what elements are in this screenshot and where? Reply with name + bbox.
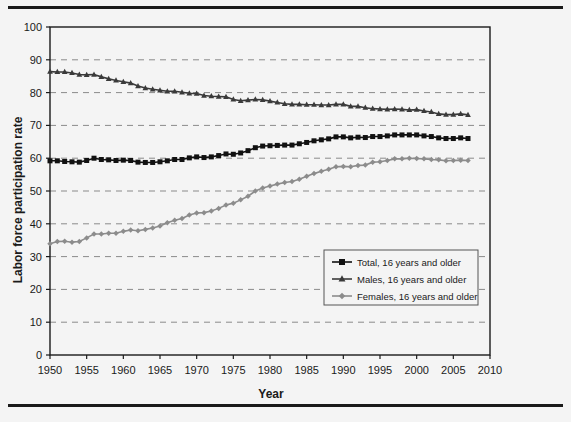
- data-point: [187, 212, 193, 218]
- data-point: [77, 239, 83, 245]
- data-series: [47, 68, 471, 246]
- data-point: [326, 136, 331, 141]
- y-tick-label: 60: [30, 152, 42, 164]
- chart-legend: Total, 16 years and olderMales, 16 years…: [324, 250, 478, 305]
- data-point: [297, 176, 303, 182]
- data-point: [121, 158, 126, 163]
- data-point: [121, 229, 127, 235]
- y-tick-label: 30: [30, 251, 42, 263]
- data-point: [275, 181, 281, 187]
- data-point: [201, 210, 207, 216]
- data-point: [165, 220, 171, 226]
- data-point: [275, 143, 280, 148]
- x-tick-label: 1985: [294, 364, 318, 376]
- data-point: [311, 171, 317, 177]
- data-point: [333, 164, 339, 170]
- data-point: [429, 157, 435, 163]
- data-point: [312, 138, 317, 143]
- data-point: [106, 157, 111, 162]
- data-point: [392, 156, 398, 162]
- data-point: [128, 158, 133, 163]
- data-point: [179, 216, 185, 222]
- data-point: [339, 259, 345, 265]
- data-point: [70, 159, 75, 164]
- data-point: [422, 133, 427, 138]
- data-point: [216, 153, 221, 158]
- data-point: [172, 217, 178, 223]
- data-point: [363, 135, 368, 140]
- data-point: [99, 231, 105, 237]
- x-tick-label: 1990: [331, 364, 355, 376]
- data-point: [260, 185, 266, 191]
- data-point: [319, 137, 324, 142]
- data-point: [143, 160, 148, 165]
- x-tick-label: 1960: [111, 364, 135, 376]
- data-point: [194, 210, 200, 216]
- data-point: [202, 155, 207, 160]
- data-point: [370, 159, 376, 165]
- y-tick-label: 50: [30, 185, 42, 197]
- data-point: [392, 132, 397, 137]
- data-point: [370, 134, 375, 139]
- data-point: [421, 156, 427, 162]
- data-point: [304, 173, 310, 179]
- data-point: [128, 227, 134, 233]
- data-point: [194, 154, 199, 159]
- data-point: [114, 158, 119, 163]
- data-point: [407, 132, 412, 137]
- x-axis-title: Year: [258, 387, 284, 401]
- data-point: [414, 156, 420, 162]
- data-point: [106, 231, 112, 237]
- data-point: [334, 134, 339, 139]
- axis-ticks: [46, 27, 490, 359]
- data-point: [458, 135, 463, 140]
- data-point: [172, 157, 177, 162]
- data-point: [143, 227, 149, 233]
- data-point: [355, 163, 361, 169]
- x-tick-label: 1965: [148, 364, 172, 376]
- figure-container: 0102030405060708090100 19501955196019651…: [0, 0, 571, 422]
- legend-item-label: Females, 16 years and older: [357, 291, 477, 302]
- y-tick-label: 90: [30, 54, 42, 66]
- data-point: [113, 231, 119, 237]
- data-point: [451, 136, 456, 141]
- data-point: [180, 157, 185, 162]
- data-point: [246, 148, 251, 153]
- data-point: [209, 154, 214, 159]
- y-tick-label: 40: [30, 218, 42, 230]
- data-point: [216, 206, 222, 212]
- data-point: [165, 158, 170, 163]
- data-point: [92, 156, 97, 161]
- data-point: [399, 156, 405, 162]
- data-point: [135, 228, 141, 234]
- x-tick-label: 1980: [258, 364, 282, 376]
- x-tick-label: 2000: [404, 364, 428, 376]
- x-tick-label: 1975: [221, 364, 245, 376]
- data-point: [400, 132, 405, 137]
- data-point: [319, 169, 325, 175]
- data-point: [187, 155, 192, 160]
- data-point: [267, 183, 273, 189]
- data-point: [443, 158, 449, 164]
- data-point: [268, 143, 273, 148]
- data-point: [407, 155, 413, 161]
- data-point: [290, 143, 295, 148]
- data-point: [150, 225, 156, 231]
- y-axis-title: Labor force participation rate: [11, 116, 25, 283]
- data-point: [136, 160, 141, 165]
- data-point: [48, 158, 53, 163]
- data-point: [231, 200, 237, 206]
- y-tick-label: 100: [24, 21, 42, 33]
- data-point: [378, 134, 383, 139]
- data-point: [297, 141, 302, 146]
- data-point: [282, 143, 287, 148]
- x-tick-label: 1955: [74, 364, 98, 376]
- data-point: [348, 135, 353, 140]
- data-point: [224, 151, 229, 156]
- data-point: [238, 197, 244, 203]
- y-tick-label: 20: [30, 283, 42, 295]
- data-point: [150, 160, 155, 165]
- y-tick-label: 0: [36, 349, 42, 361]
- data-point: [414, 132, 419, 137]
- data-point: [466, 136, 471, 141]
